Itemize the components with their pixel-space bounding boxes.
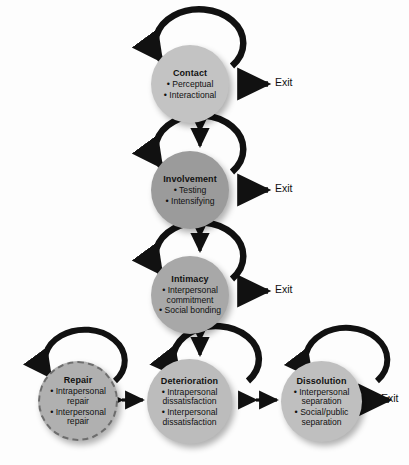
stage-content-contact: Contact • Perceptual • Interactional bbox=[151, 68, 229, 100]
stage-items-dissolution: • Interpersonal separation • Social/publ… bbox=[285, 387, 358, 428]
list-item: • Interactional bbox=[155, 90, 225, 101]
stage-items-repair: • Intrapersonal repair • Interpersonal r… bbox=[44, 386, 112, 427]
list-item: • Social bonding bbox=[155, 305, 225, 316]
exit-label-involvement: Exit bbox=[275, 182, 293, 194]
stage-items-deterioration: • Intrapersonal dissatisfaction • Interp… bbox=[151, 387, 228, 428]
list-item: • Intrapersonal dissatisfaction bbox=[151, 387, 228, 407]
stage-content-intimacy: Intimacy • Interpersonal commitment • So… bbox=[151, 274, 229, 316]
stage-node-deterioration[interactable]: Deterioration • Intrapersonal dissatisfa… bbox=[147, 359, 232, 444]
diagram-canvas: Contact • Perceptual • Interactional Inv… bbox=[0, 0, 409, 465]
stage-title-intimacy: Intimacy bbox=[155, 274, 225, 284]
stage-items-involvement: • Testing • Intensifying bbox=[155, 185, 225, 206]
stage-title-involvement: Involvement bbox=[155, 174, 225, 184]
stage-items-intimacy: • Interpersonal commitment • Social bond… bbox=[155, 285, 225, 316]
stage-title-dissolution: Dissolution bbox=[285, 376, 358, 386]
stage-content-dissolution: Dissolution • Interpersonal separation •… bbox=[281, 376, 362, 428]
exit-label-contact: Exit bbox=[275, 76, 293, 88]
stage-node-repair[interactable]: Repair • Intrapersonal repair • Interper… bbox=[38, 361, 118, 441]
list-item: • Intrapersonal repair bbox=[44, 386, 112, 406]
stage-node-involvement[interactable]: Involvement • Testing • Intensifying bbox=[151, 151, 229, 229]
stage-items-contact: • Perceptual • Interactional bbox=[155, 79, 225, 100]
stage-node-contact[interactable]: Contact • Perceptual • Interactional bbox=[151, 45, 229, 123]
stage-title-repair: Repair bbox=[44, 375, 112, 385]
stage-content-repair: Repair • Intrapersonal repair • Interper… bbox=[40, 375, 116, 427]
stage-title-contact: Contact bbox=[155, 68, 225, 78]
stage-content-deterioration: Deterioration • Intrapersonal dissatisfa… bbox=[147, 376, 232, 428]
list-item: • Interpersonal dissatisfaction bbox=[151, 407, 228, 427]
stage-node-intimacy[interactable]: Intimacy • Interpersonal commitment • So… bbox=[151, 256, 229, 334]
list-item: • Social/public separation bbox=[285, 407, 358, 427]
list-item: • Testing bbox=[155, 185, 225, 196]
exit-label-dissolution: Exit bbox=[381, 392, 399, 404]
list-item: • Perceptual bbox=[155, 79, 225, 90]
list-item: • Intensifying bbox=[155, 196, 225, 207]
list-item: • Interpersonal commitment bbox=[155, 285, 225, 305]
stage-title-deterioration: Deterioration bbox=[151, 376, 228, 386]
exit-label-intimacy: Exit bbox=[275, 283, 293, 295]
list-item: • Interpersonal repair bbox=[44, 407, 112, 427]
stage-content-involvement: Involvement • Testing • Intensifying bbox=[151, 174, 229, 206]
stage-node-dissolution[interactable]: Dissolution • Interpersonal separation •… bbox=[281, 361, 362, 442]
list-item: • Interpersonal separation bbox=[285, 387, 358, 407]
